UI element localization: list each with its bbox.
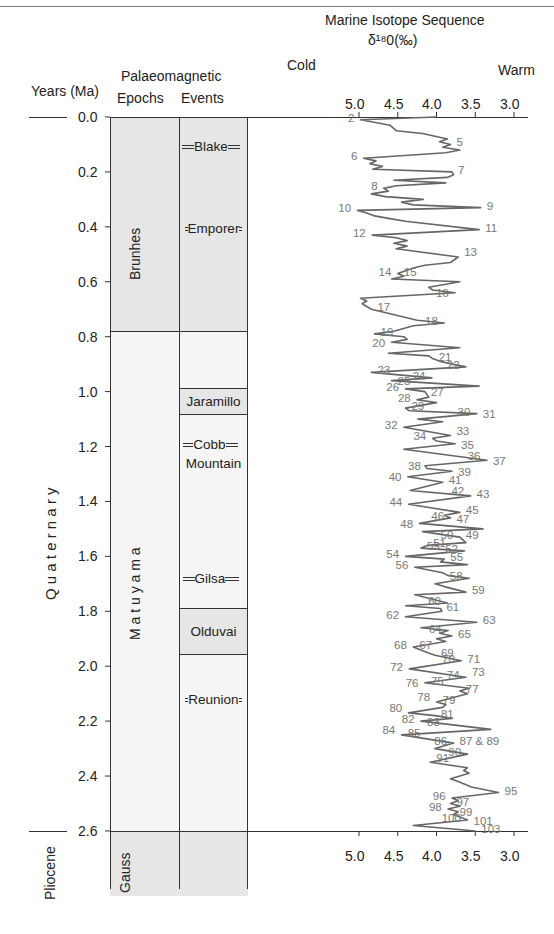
stage-label: 12 <box>353 227 366 239</box>
stage-label: 82 <box>402 713 415 725</box>
stage-label: 91 <box>436 752 449 764</box>
stage-label: 23 <box>377 364 390 376</box>
stage-label: 55 <box>450 551 463 563</box>
stage-label: 90 <box>448 746 461 758</box>
stage-label: 44 <box>389 496 402 508</box>
stage-label: 32 <box>385 419 398 431</box>
stage-label: 77 <box>466 683 479 695</box>
stage-label: 42 <box>451 485 464 497</box>
stage-label: 25 <box>398 375 411 387</box>
stage-label: 98 <box>429 801 442 813</box>
stage-label: 74 <box>447 669 460 681</box>
stage-label: 16 <box>436 287 449 299</box>
stage-label: 5 <box>456 136 462 148</box>
stage-label: 8 <box>371 180 377 192</box>
stage-label: 73 <box>472 666 485 678</box>
stage-label: 20 <box>372 337 385 349</box>
stage-label: 63 <box>483 614 496 626</box>
stage-label: 103 <box>481 823 500 835</box>
stage-label: 64 <box>429 623 442 635</box>
stage-label: 27 <box>431 386 444 398</box>
stage-label: 58 <box>450 570 463 582</box>
stage-label: 68 <box>394 639 407 651</box>
stage-label: 87 & 89 <box>460 735 500 747</box>
stage-label: 43 <box>477 488 490 500</box>
stage-label: 72 <box>390 661 403 673</box>
stage-label: 99 <box>460 806 473 818</box>
stage-label: 24 <box>413 370 426 382</box>
stage-label: 62 <box>386 609 399 621</box>
stage-label: 56 <box>396 559 409 571</box>
stage-label: 49 <box>466 529 479 541</box>
stage-label: 83 <box>427 716 440 728</box>
stage-label: 9 <box>487 200 493 212</box>
stage-label: 61 <box>446 601 459 613</box>
stage-label: 11 <box>485 222 497 234</box>
stage-label: 30 <box>458 406 471 418</box>
stage-label: 59 <box>472 584 485 596</box>
stage-label: 95 <box>505 785 518 797</box>
stage-label: 17 <box>377 301 390 313</box>
stage-label: 48 <box>400 518 413 530</box>
stage-label: 31 <box>483 408 496 420</box>
stage-label: 76 <box>406 677 419 689</box>
stage-label: 81 <box>441 708 454 720</box>
stage-label: 75 <box>431 675 444 687</box>
stage-label: 86 <box>434 735 447 747</box>
stage-label: 28 <box>398 392 411 404</box>
stage-label: 34 <box>413 430 426 442</box>
stage-label: 14 <box>379 266 392 278</box>
stage-label: 71 <box>467 653 480 665</box>
stage-label: 65 <box>458 628 471 640</box>
stage-label: 7 <box>458 164 464 176</box>
stage-label: 80 <box>389 702 402 714</box>
stage-label: 67 <box>419 639 432 651</box>
stage-label: 10 <box>338 202 351 214</box>
stage-label: 29 <box>412 400 425 412</box>
isotope-curve-chart <box>0 0 554 934</box>
stage-label: 40 <box>389 471 402 483</box>
stage-label: 2 <box>348 112 354 124</box>
stage-label: 85 <box>408 727 421 739</box>
stage-label: 36 <box>468 450 481 462</box>
stage-label: 33 <box>456 425 469 437</box>
stage-label: 13 <box>464 246 477 258</box>
stage-label: 6 <box>351 150 357 162</box>
stage-label: 60 <box>428 595 441 607</box>
stage-label: 22 <box>447 359 460 371</box>
stage-label: 37 <box>493 455 506 467</box>
stage-label: 79 <box>443 694 456 706</box>
stage-label: 46 <box>431 510 444 522</box>
stage-label: 15 <box>404 266 417 278</box>
stage-label: 100 <box>442 812 461 824</box>
stage-label: 84 <box>382 724 395 736</box>
stage-label: 18 <box>425 315 438 327</box>
stage-label: 70 <box>442 653 455 665</box>
stage-label: 78 <box>417 691 430 703</box>
stage-label: 47 <box>456 513 469 525</box>
stage-label: 38 <box>408 460 421 472</box>
stage-label: 53 <box>427 540 440 552</box>
